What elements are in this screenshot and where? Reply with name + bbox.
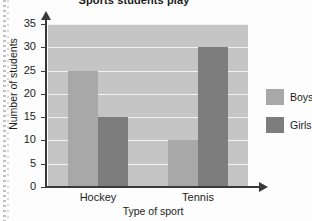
chart-title: Sports students play xyxy=(0,0,268,6)
y-axis-title: Number of students xyxy=(7,19,19,149)
y-axis-line xyxy=(45,18,47,188)
scan-binding-artifact xyxy=(3,0,6,221)
y-axis-tick xyxy=(41,71,46,72)
y-axis-tick xyxy=(41,24,46,25)
bar-hockey-boys xyxy=(68,71,98,187)
bar-tennis-boys xyxy=(168,140,198,187)
plot-area xyxy=(48,24,248,187)
category-label-tennis: Tennis xyxy=(148,191,248,203)
y-axis-tick xyxy=(41,117,46,118)
bar-tennis-girls xyxy=(198,47,228,187)
y-axis-tick-label: 0 xyxy=(10,180,36,192)
legend-item-boys[interactable]: Boys xyxy=(266,89,312,105)
y-axis-tick xyxy=(41,164,46,165)
legend-swatch-icon xyxy=(266,89,284,105)
y-axis-tick-label: 5 xyxy=(10,157,36,169)
y-axis-tick xyxy=(41,94,46,95)
y-axis-tick xyxy=(41,187,46,188)
legend-label: Girls xyxy=(290,119,312,131)
chart-legend: BoysGirls xyxy=(266,89,312,145)
y-axis-tick xyxy=(41,47,46,48)
category-label-hockey: Hockey xyxy=(48,191,148,203)
legend-item-girls[interactable]: Girls xyxy=(266,117,312,133)
x-axis-title: Type of sport xyxy=(45,205,261,217)
chart-figure: Sports students play 05101520253035 Numb… xyxy=(0,0,312,221)
legend-swatch-icon xyxy=(266,117,284,133)
bar-hockey-girls xyxy=(98,117,128,187)
x-axis-arrow-icon xyxy=(259,182,268,192)
x-axis-line xyxy=(45,186,261,188)
gridline xyxy=(48,24,248,25)
y-axis-arrow-icon xyxy=(41,11,51,20)
y-axis-tick xyxy=(41,140,46,141)
legend-label: Boys xyxy=(290,91,312,103)
